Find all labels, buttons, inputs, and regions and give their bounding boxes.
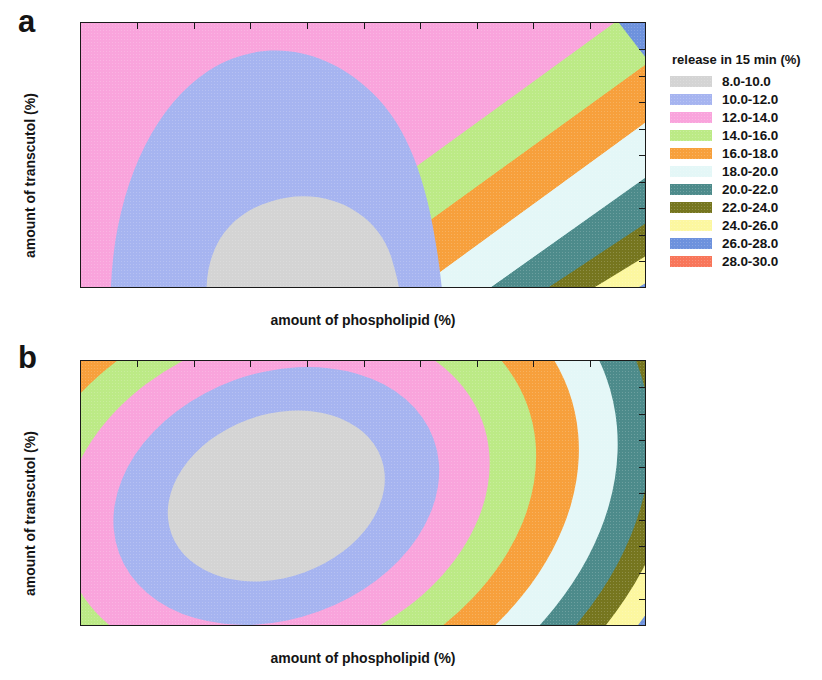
panel-a-xtick-21 bbox=[420, 287, 422, 288]
panel-a-ytick-11 bbox=[80, 129, 81, 131]
panel-b-ytick-minor bbox=[80, 387, 81, 388]
legend-item: 28.0-30.0 bbox=[664, 252, 822, 270]
panel-a-plot-area: 5 7 9 11 13 15 15 17 19 21 23 25 bbox=[80, 22, 646, 288]
panel-b-xtick-minor bbox=[364, 625, 365, 626]
panel-b-plot-area: 5 7 9 11 13 15 15 17 19 21 23 25 bbox=[80, 360, 646, 626]
panel-b-xtick-25 bbox=[645, 625, 646, 626]
legend-swatch bbox=[670, 166, 712, 177]
legend-item: 18.0-20.0 bbox=[664, 162, 822, 180]
panel-b-xtick-minor bbox=[250, 625, 251, 626]
legend-swatch bbox=[670, 220, 712, 231]
legend-swatch bbox=[670, 112, 712, 123]
panel-b-ytick-13 bbox=[80, 414, 81, 416]
panel-b-ytick-15 bbox=[80, 361, 81, 363]
legend-item: 24.0-26.0 bbox=[664, 216, 822, 234]
panel-a-ytick-9 bbox=[80, 182, 81, 184]
panel-a-xtick-23 bbox=[533, 287, 535, 288]
legend-swatch bbox=[670, 238, 712, 249]
panel-b-ytick-9 bbox=[80, 520, 81, 522]
legend-label: 24.0-26.0 bbox=[722, 218, 778, 233]
panel-a-ytick-7 bbox=[80, 235, 81, 237]
legend-label: 8.0-10.0 bbox=[722, 74, 771, 89]
panel-a-xtick-minor bbox=[250, 287, 251, 288]
legend-item: 16.0-18.0 bbox=[664, 144, 822, 162]
legend-label: 12.0-14.0 bbox=[722, 110, 778, 125]
panel-a-xtick-minor bbox=[477, 287, 478, 288]
panel-a-xtick-17 bbox=[194, 287, 196, 288]
legend-item: 14.0-16.0 bbox=[664, 126, 822, 144]
panel-b-xtick-23 bbox=[533, 625, 535, 626]
panel-b-xtick-17 bbox=[194, 625, 196, 626]
panel-a-ytick-13 bbox=[80, 76, 81, 78]
panel-a-legend: release in 15 min (%) 8.0-10.0 10.0-12.0… bbox=[664, 52, 822, 270]
panel-a-legend-title: release in 15 min (%) bbox=[672, 52, 822, 67]
legend-item: 20.0-22.0 bbox=[664, 180, 822, 198]
legend-item: 12.0-14.0 bbox=[664, 108, 822, 126]
legend-swatch bbox=[670, 256, 712, 267]
legend-swatch bbox=[670, 184, 712, 195]
legend-label: 14.0-16.0 bbox=[722, 128, 778, 143]
panel-b-letter: b bbox=[18, 340, 37, 376]
panel-b-xtick-21 bbox=[420, 625, 422, 626]
legend-swatch bbox=[670, 76, 712, 87]
panel-a-y-axis-title: amount of transcutol (%) bbox=[22, 93, 38, 258]
legend-label: 20.0-22.0 bbox=[722, 182, 778, 197]
legend-item: 10.0-12.0 bbox=[664, 90, 822, 108]
panel-b-ytick-minor bbox=[80, 440, 81, 441]
legend-label: 28.0-30.0 bbox=[722, 254, 778, 269]
panel-b-xtick-15 bbox=[81, 625, 83, 626]
panel-a-x-axis-title: amount of phospholipid (%) bbox=[80, 312, 646, 328]
legend-label: 22.0-24.0 bbox=[722, 200, 778, 215]
panel-a-xtick-15 bbox=[81, 287, 83, 288]
panel-a-xtick-minor bbox=[364, 287, 365, 288]
legend-swatch bbox=[670, 148, 712, 159]
panel-b-ytick-11 bbox=[80, 467, 81, 469]
legend-label: 18.0-20.0 bbox=[722, 164, 778, 179]
panel-b-y-axis-title: amount of transcutol (%) bbox=[22, 431, 38, 596]
panel-a-xtick-minor bbox=[590, 287, 591, 288]
panel-a-contour-canvas bbox=[81, 23, 645, 287]
legend-swatch bbox=[670, 130, 712, 141]
panel-b-xtick-minor bbox=[590, 625, 591, 626]
panel-a-ytick-minor bbox=[80, 208, 81, 209]
legend-label: 16.0-18.0 bbox=[722, 146, 778, 161]
panel-b-contour-canvas bbox=[81, 361, 645, 625]
panel-b-ytick-minor bbox=[80, 493, 81, 494]
legend-label: 26.0-28.0 bbox=[722, 236, 778, 251]
panel-b-ytick-minor bbox=[80, 599, 81, 600]
legend-swatch bbox=[670, 94, 712, 105]
panel-a-xtick-25 bbox=[645, 287, 646, 288]
panel-a-ytick-minor bbox=[80, 261, 81, 262]
panel-a-letter: a bbox=[18, 4, 35, 40]
legend-item: 22.0-24.0 bbox=[664, 198, 822, 216]
panel-a-ytick-minor bbox=[80, 49, 81, 50]
panel-b: b bbox=[0, 338, 822, 680]
panel-b-xtick-minor bbox=[137, 625, 138, 626]
legend-label: 10.0-12.0 bbox=[722, 92, 778, 107]
panel-a-ytick-15 bbox=[80, 23, 81, 25]
panel-b-xtick-19 bbox=[307, 625, 309, 626]
legend-item: 26.0-28.0 bbox=[664, 234, 822, 252]
panel-a-ytick-minor bbox=[80, 155, 81, 156]
legend-item: 8.0-10.0 bbox=[664, 72, 822, 90]
panel-b-ytick-7 bbox=[80, 573, 81, 575]
panel-a: a bbox=[0, 0, 822, 340]
panel-a-xtick-19 bbox=[307, 287, 309, 288]
legend-swatch bbox=[670, 202, 712, 213]
panel-a-ytick-minor bbox=[80, 102, 81, 103]
figure-contour-plots: a bbox=[0, 0, 822, 680]
panel-b-ytick-minor bbox=[80, 546, 81, 547]
panel-b-xtick-minor bbox=[477, 625, 478, 626]
panel-b-x-axis-title: amount of phospholipid (%) bbox=[80, 650, 646, 666]
panel-a-xtick-minor bbox=[137, 287, 138, 288]
